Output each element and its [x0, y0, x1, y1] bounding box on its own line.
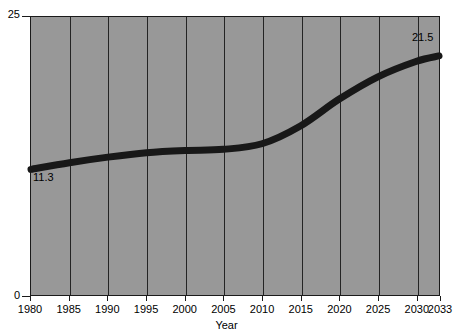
x-axis-tick-1990	[107, 296, 108, 301]
x-axis-label-1990: 1990	[95, 303, 119, 315]
annotation-end-value: 21.5	[412, 32, 433, 43]
x-axis-label-2010: 2010	[250, 303, 274, 315]
x-axis-label-2020: 2020	[327, 303, 351, 315]
x-axis-label-2025: 2025	[366, 303, 390, 315]
x-axis-label-1995: 1995	[134, 303, 158, 315]
series-line-value	[31, 17, 439, 295]
x-axis-tick-1985	[69, 296, 70, 301]
x-axis-tick-1995	[146, 296, 147, 301]
x-axis-tick-2020	[339, 296, 340, 301]
x-axis-label-2000: 2000	[172, 303, 196, 315]
x-axis-tick-2010	[262, 296, 263, 301]
x-axis-tick-2015	[301, 296, 302, 301]
cropped-header-strip	[0, 0, 453, 5]
x-axis-tick-2030	[417, 296, 418, 301]
x-axis-tick-2005	[223, 296, 224, 301]
annotation-start-value: 11.3	[33, 172, 54, 183]
series-path	[31, 56, 439, 169]
x-axis-tick-2033	[440, 296, 441, 301]
y-axis-label-min: 0	[0, 290, 20, 301]
x-axis-tick-2000	[185, 296, 186, 301]
x-axis-label-1980: 1980	[18, 303, 42, 315]
x-axis-label-2005: 2005	[211, 303, 235, 315]
x-axis-label-2015: 2015	[289, 303, 313, 315]
x-axis-tick-1980	[30, 296, 31, 301]
x-axis-label-1985: 1985	[56, 303, 80, 315]
line-chart: 25 0 19801985199019952000200520102015202…	[0, 0, 453, 334]
x-axis-label-2033: 2033	[428, 303, 452, 315]
x-axis-tick-2025	[378, 296, 379, 301]
y-axis-label-max: 25	[0, 9, 20, 20]
x-axis-title: Year	[0, 319, 453, 331]
plot-area	[30, 16, 440, 296]
x-axis-label-2030: 2030	[405, 303, 429, 315]
